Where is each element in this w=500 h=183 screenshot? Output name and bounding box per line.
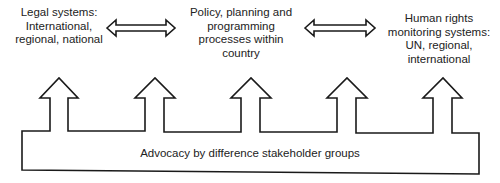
double-arrow-icon-legal-policy bbox=[107, 20, 175, 36]
advocacy-base-with-up-arrows-icon bbox=[22, 78, 479, 174]
double-arrow-icon-policy-hr bbox=[305, 20, 375, 36]
advocacy-label: Advocacy by difference stakeholder group… bbox=[100, 147, 400, 159]
